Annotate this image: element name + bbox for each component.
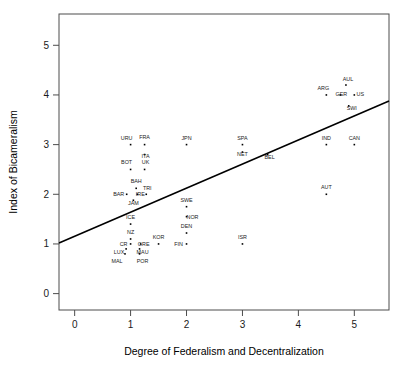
data-point-label: GRE (138, 241, 150, 247)
plot-frame (59, 14, 389, 310)
data-point (130, 238, 132, 240)
data-point (186, 144, 188, 146)
x-axis-title: Degree of Federalism and Decentralizatio… (124, 345, 324, 357)
data-point-label: BAH (131, 178, 142, 184)
data-point-label: ARG (318, 85, 330, 91)
y-tick-label: 1 (43, 238, 49, 249)
data-point (130, 243, 132, 245)
data-point-label: DEN (181, 223, 192, 229)
data-point-label: GER (335, 91, 347, 97)
data-point (326, 144, 328, 146)
scatter-plot-figure: 012345012345Degree of Federalism and Dec… (0, 0, 411, 377)
y-axis-title: Index of Bicameralism (7, 110, 19, 214)
data-point (242, 144, 244, 146)
data-point-label: MAU (137, 249, 149, 255)
data-point (186, 206, 188, 208)
data-point-label: BOT (121, 159, 133, 165)
data-point-label: SWE (180, 197, 193, 203)
data-point-label: LUX (114, 249, 125, 255)
data-point-label: ISR (238, 234, 247, 240)
data-point-label: POR (137, 258, 149, 264)
data-point (158, 243, 160, 245)
x-tick-label: 2 (184, 319, 190, 330)
data-point-label: UK (142, 159, 150, 165)
y-tick-label: 4 (43, 89, 49, 100)
data-point (130, 144, 132, 146)
data-point (139, 253, 141, 255)
data-point-label: US (357, 91, 365, 97)
y-tick-label: 5 (43, 40, 49, 51)
y-tick-label: 3 (43, 139, 49, 150)
data-point-label: ITA (142, 153, 150, 159)
x-tick-label: 1 (128, 319, 134, 330)
y-tick-label: 2 (43, 189, 49, 200)
data-point-label: SPA (237, 135, 248, 141)
data-point (144, 169, 146, 171)
data-point-label: CR (120, 241, 128, 247)
data-point-label: BEL (265, 154, 275, 160)
data-point-label: JAM (128, 200, 139, 206)
data-point-label: ICE (126, 214, 135, 220)
data-point-label: NZ (127, 229, 135, 235)
y-tick-label: 0 (43, 288, 49, 299)
data-point (354, 144, 356, 146)
data-point (186, 243, 188, 245)
data-point (130, 169, 132, 171)
data-point (124, 253, 126, 255)
data-point-label: NOR (187, 214, 199, 220)
data-point-label: KOR (153, 234, 165, 240)
data-point (135, 188, 137, 190)
data-point-label: URU (121, 135, 133, 141)
x-tick-label: 5 (352, 319, 358, 330)
data-point (144, 144, 146, 146)
data-point-label: MAL (111, 258, 122, 264)
data-point-label: CAN (349, 135, 360, 141)
data-point (125, 248, 127, 250)
data-point (145, 193, 147, 195)
data-point (326, 193, 328, 195)
data-point-label: AUT (321, 184, 332, 190)
data-point (326, 94, 328, 96)
data-point-label: IRE (136, 191, 145, 197)
data-point-label: IND (322, 135, 331, 141)
data-point-label: JPN (181, 135, 191, 141)
data-point (186, 232, 188, 234)
data-point (126, 193, 128, 195)
x-tick-label: 4 (296, 319, 302, 330)
data-point (242, 243, 244, 245)
data-point-label: BAR (113, 191, 124, 197)
x-tick-label: 0 (72, 319, 78, 330)
data-point-label: FIN (174, 241, 183, 247)
x-tick-label: 3 (240, 319, 246, 330)
data-point-label: AUL (343, 76, 354, 82)
data-point-label: TRI (143, 185, 152, 191)
data-point (130, 223, 132, 225)
regression-line (59, 101, 389, 243)
data-point-label: NET (237, 151, 248, 157)
data-point-label: FRA (139, 134, 150, 140)
data-point (354, 94, 356, 96)
data-point-label: SWI (347, 105, 357, 111)
plot-canvas: 012345012345Degree of Federalism and Dec… (0, 0, 411, 377)
data-point (345, 84, 347, 86)
